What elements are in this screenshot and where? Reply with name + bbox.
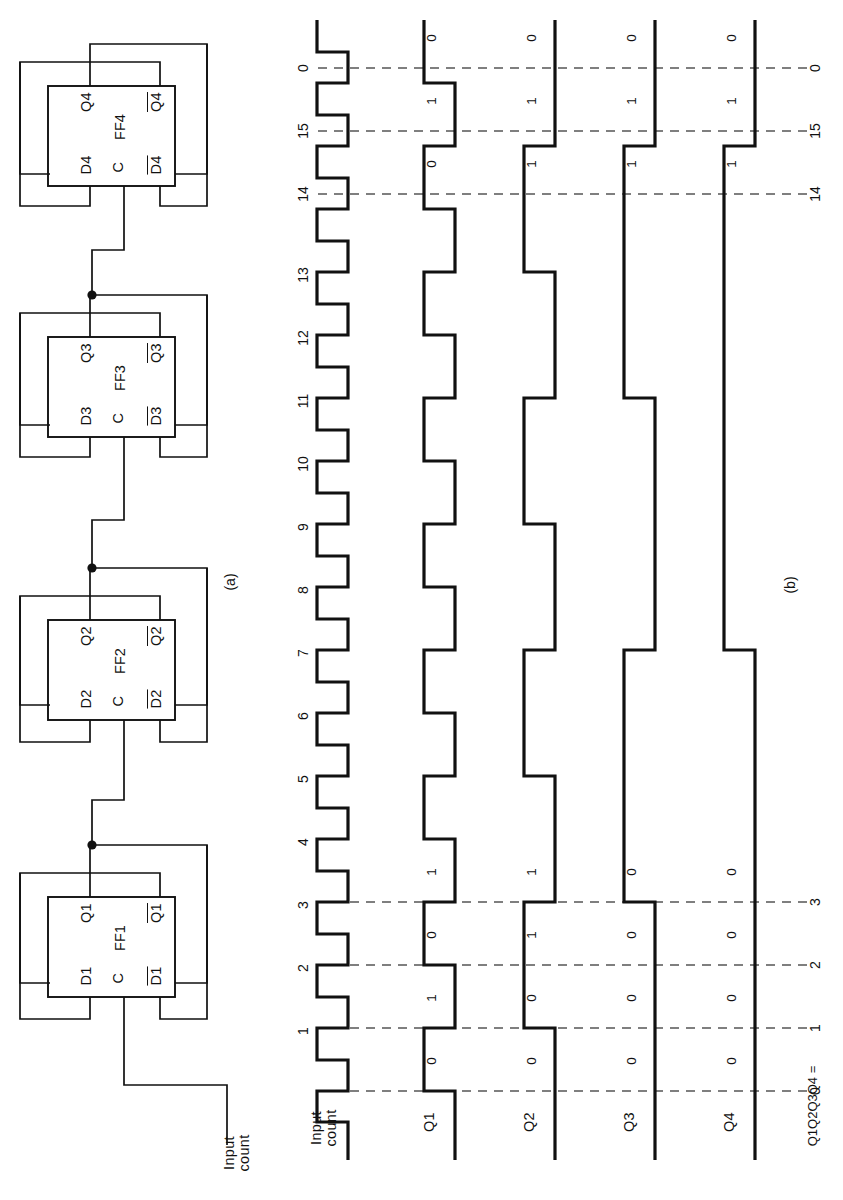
q4-bit-count-0-top: 0 [722, 25, 740, 51]
ff4-qbar-label: Q4 [146, 80, 166, 124]
q3-bit-count-14: 1 [622, 151, 640, 177]
ff2-dbar-label: D2 [146, 677, 166, 721]
ff3-q-label: Q3 [76, 331, 96, 375]
tick-label-13: 13 [294, 260, 312, 290]
count-label-bottom-2: 2 [806, 950, 824, 980]
tick-label-5: 5 [294, 764, 312, 794]
input-count-waveform [317, 20, 348, 1160]
ff1-group [20, 840, 227, 1145]
junction-dot-ff3 [87, 290, 96, 299]
tick-label-7: 7 [294, 638, 312, 668]
ff4-d-label: D4 [76, 143, 96, 187]
q3-bit-count-15: 1 [622, 88, 640, 114]
q4-bit-count-3: 0 [722, 859, 740, 885]
timing-row-label-q4: Q4 [719, 1099, 739, 1145]
ff3-qbar-label: Q3 [146, 331, 166, 375]
q4-bit-count-2: 0 [722, 922, 740, 948]
tick-label-11: 11 [294, 386, 312, 416]
tick-label-6: 6 [294, 701, 312, 731]
ff4-dbar-label: D4 [146, 143, 166, 187]
q2-bit-count-0-top: 0 [522, 25, 540, 51]
ff1-d-label: D1 [76, 954, 96, 998]
ff1-qbar-label: Q1 [146, 891, 166, 935]
q2-bit-count-2: 1 [522, 922, 540, 948]
q3-bit-count-3: 0 [622, 859, 640, 885]
ff1-name-label: FF1 [109, 918, 131, 958]
q3-bit-count-1: 0 [622, 985, 640, 1011]
ff4-name-label: FF4 [109, 107, 131, 147]
tick-label-3: 3 [294, 890, 312, 920]
q1-bit-count-14: 0 [422, 151, 440, 177]
schematic-input-count-line2: count [237, 1135, 252, 1172]
ff1-q-label: Q1 [76, 891, 96, 935]
timing-input-count-line2: count [324, 1110, 339, 1147]
q2-bit-count-14: 1 [522, 151, 540, 177]
figure-label-b: (b) [780, 567, 800, 603]
q1-bit-count-15: 1 [422, 88, 440, 114]
ff2-d-label: D2 [76, 677, 96, 721]
ff2-name-label: FF2 [109, 641, 131, 681]
ff2-qbar-label: Q2 [146, 614, 166, 658]
ff1-clock-label: C [109, 964, 127, 992]
ff3-d-label: D3 [76, 394, 96, 438]
tick-label-0: 0 [294, 53, 312, 83]
figure-label-a: (a) [220, 564, 240, 600]
tick-label-4: 4 [294, 827, 312, 857]
q2-bit-count-0: 0 [522, 1048, 540, 1074]
ff3-clock-label: C [109, 404, 127, 432]
tick-label-15: 15 [294, 116, 312, 146]
q1-bit-count-0: 0 [422, 1048, 440, 1074]
q3-bit-count-2: 0 [622, 922, 640, 948]
q3-bit-count-0-top: 0 [622, 25, 640, 51]
ff4-q-label: Q4 [76, 80, 96, 124]
junction-dot-ff1 [87, 840, 96, 849]
q2-bit-count-1: 0 [522, 985, 540, 1011]
ff3-name-label: FF3 [109, 358, 131, 398]
count-label-top-0: 0 [806, 53, 824, 83]
q4-bit-count-0: 0 [722, 1048, 740, 1074]
timing-row-label-q3: Q3 [619, 1099, 639, 1145]
tick-label-2: 2 [294, 953, 312, 983]
q4-bit-count-15: 1 [722, 88, 740, 114]
q1-bit-count-3: 1 [422, 859, 440, 885]
ff1-dbar-label: D1 [146, 954, 166, 998]
count-label-bottom-3: 3 [806, 887, 824, 917]
tick-label-8: 8 [294, 575, 312, 605]
ff2-q-label: Q2 [76, 614, 96, 658]
figure-canvas: Q4 Q4 D4 D4 C FF4 Q3 Q3 D3 D3 C FF3 Q2 Q… [0, 0, 843, 1200]
ff4-clock-label: C [109, 153, 127, 181]
timing-input-count-label: Input count [296, 1096, 352, 1160]
count-label-top-14: 14 [806, 179, 824, 209]
timing-row-label-q2: Q2 [519, 1099, 539, 1145]
q1-bit-count-1: 1 [422, 985, 440, 1011]
junction-dot-ff2 [87, 563, 96, 572]
q3-bit-count-0: 0 [622, 1048, 640, 1074]
count-label-bottom-1: 1 [806, 1013, 824, 1043]
timing-input-count-line1: Input [309, 1111, 324, 1145]
q4-bit-count-1: 0 [722, 985, 740, 1011]
tick-label-1: 1 [294, 1016, 312, 1046]
tick-label-12: 12 [294, 323, 312, 353]
q4-bit-count-14: 1 [722, 151, 740, 177]
state-word-label: Q1Q2Q3Q4 = [802, 1042, 822, 1170]
count-label-bottom-0: 0 [806, 1076, 824, 1106]
q1-bit-count-0-top: 0 [422, 25, 440, 51]
q1-bit-count-2: 0 [422, 922, 440, 948]
q2-bit-count-3: 1 [522, 859, 540, 885]
q2-bit-count-15: 1 [522, 88, 540, 114]
tick-label-10: 10 [294, 449, 312, 479]
ff3-dbar-label: D3 [146, 394, 166, 438]
tick-label-14: 14 [294, 179, 312, 209]
count-label-top-15: 15 [806, 116, 824, 146]
tick-label-9: 9 [294, 512, 312, 542]
schematic-input-count-line1: Input [222, 1136, 237, 1170]
schematic-input-count-label: Input count [209, 1121, 265, 1185]
timing-row-label-q1: Q1 [419, 1099, 439, 1145]
ff2-clock-label: C [109, 687, 127, 715]
